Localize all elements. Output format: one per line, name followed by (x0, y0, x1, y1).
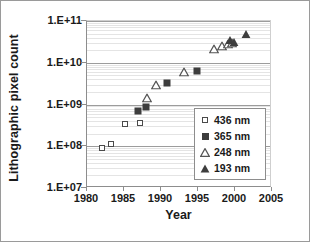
chart-legend: 436 nm365 nm248 nm193 nm (194, 108, 266, 180)
data-point (99, 145, 105, 151)
gridline-minor (87, 50, 270, 51)
gridline-major (87, 21, 270, 22)
y-axis-title-text: Lithographic pixel count (7, 34, 21, 182)
y-axis-tick-label: 1.E+11 (47, 14, 82, 26)
legend-marker-icon (199, 162, 211, 174)
y-axis-tick-mark (81, 145, 86, 146)
x-axis-tick-label: 1980 (74, 192, 98, 204)
gridline-minor (87, 25, 270, 26)
legend-marker-icon (199, 146, 211, 158)
gridline-minor (87, 43, 270, 44)
legend-marker-icon (199, 114, 211, 126)
y-axis-title: Lithographic pixel count (1, 1, 27, 215)
y-axis-tick-mark (81, 104, 86, 105)
gridline-minor (87, 23, 270, 24)
legend-item: 436 nm (199, 112, 261, 128)
legend-item: 248 nm (199, 144, 261, 160)
data-point (122, 121, 128, 127)
gridline-minor (87, 85, 270, 86)
x-axis-tick-label: 2005 (259, 192, 283, 204)
data-point (142, 94, 152, 103)
data-point (135, 107, 142, 114)
legend-marker-icon (199, 130, 211, 142)
y-axis-tick-label: 1.E+09 (47, 98, 82, 110)
legend-item: 193 nm (199, 160, 261, 176)
data-point (151, 81, 161, 90)
gridline-major (87, 105, 270, 106)
y-axis-tick-label: 1.E+08 (47, 139, 82, 151)
gridline-major (87, 63, 270, 64)
data-point (194, 67, 201, 74)
data-point (137, 120, 143, 126)
chart-figure: Lithographic pixel count 1.E+071.E+081.E… (0, 0, 310, 242)
y-axis-tick-mark (81, 62, 86, 63)
gridline-minor (87, 92, 270, 93)
legend-item-label: 248 nm (214, 146, 250, 158)
x-axis-tick-mark (197, 187, 198, 191)
data-point (163, 79, 170, 86)
data-point (179, 67, 189, 76)
gridline-minor (87, 79, 270, 80)
data-point (229, 37, 239, 46)
legend-item-label: 193 nm (214, 162, 250, 174)
x-axis-tick-labels: 198019851990199520002005 (1, 192, 310, 208)
legend-item-label: 436 nm (214, 114, 250, 126)
x-axis-title: Year (86, 208, 271, 222)
x-axis-tick-label: 1985 (111, 192, 135, 204)
data-point (108, 141, 114, 147)
legend-item: 365 nm (199, 128, 261, 144)
x-axis-tick-mark (271, 187, 272, 191)
x-axis-tick-label: 1995 (185, 192, 209, 204)
y-axis-tick-label: 1.E+10 (47, 56, 82, 68)
legend-item-label: 365 nm (214, 130, 250, 142)
x-axis-tick-mark (86, 187, 87, 191)
x-axis-tick-mark (123, 187, 124, 191)
gridline-minor (87, 65, 270, 66)
x-axis-tick-label: 1990 (148, 192, 172, 204)
x-axis-tick-label: 2000 (222, 192, 246, 204)
data-point (143, 104, 150, 111)
data-point (241, 29, 251, 38)
x-axis-tick-mark (234, 187, 235, 191)
y-axis-tick-mark (81, 20, 86, 21)
x-axis-tick-mark (160, 187, 161, 191)
